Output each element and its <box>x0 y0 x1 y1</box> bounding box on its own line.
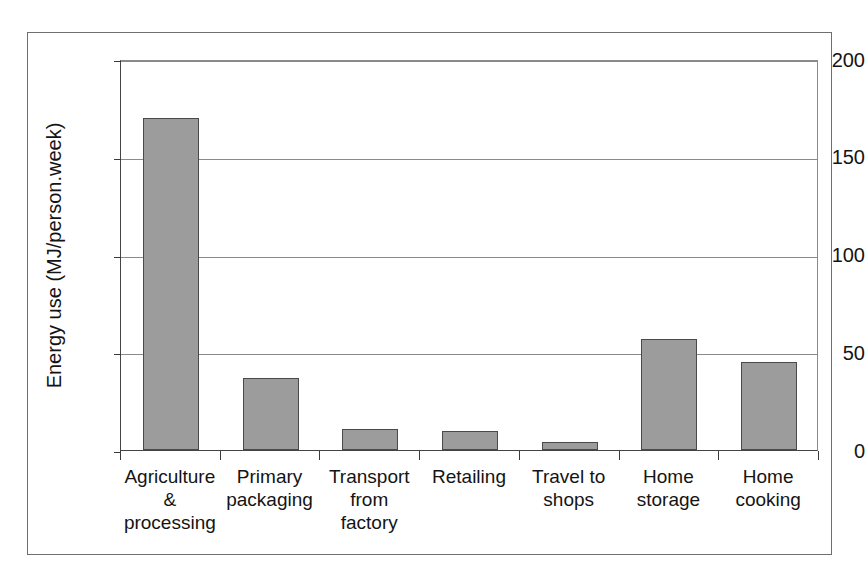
x-axis-tick-label: Agriculture&processing <box>120 465 220 534</box>
y-axis-tick <box>114 257 121 258</box>
bar <box>641 339 697 450</box>
x-axis-tick <box>220 451 221 460</box>
bar <box>442 431 498 450</box>
x-axis-tick-label-line: Transport <box>319 465 419 488</box>
bar <box>243 378 299 450</box>
x-axis-tick-label-line: shops <box>519 488 619 511</box>
x-axis-tick-label: Retailing <box>419 465 519 488</box>
x-axis-tick-label-line: storage <box>619 488 719 511</box>
plot-area <box>120 60 818 451</box>
y-axis-tick <box>114 159 121 160</box>
x-axis-tick <box>319 451 320 460</box>
x-axis: Agriculture&processingPrimarypackagingTr… <box>120 451 818 551</box>
gridline <box>121 354 817 355</box>
x-axis-tick-label: Travel toshops <box>519 465 619 511</box>
x-axis-tick <box>619 451 620 460</box>
y-axis-tick <box>114 354 121 355</box>
x-axis-tick-label-line: Agriculture <box>120 465 220 488</box>
y-axis-title: Energy use (MJ/person.week) <box>40 60 68 451</box>
x-axis-tick <box>718 451 719 460</box>
x-axis-tick-label: Primarypackaging <box>220 465 320 511</box>
x-axis-tick-label-line: & <box>120 488 220 511</box>
x-axis-tick-label-line: cooking <box>718 488 818 511</box>
x-axis-tick-label-line: Retailing <box>419 465 519 488</box>
gridline <box>121 257 817 258</box>
x-axis-tick-label-line: packaging <box>220 488 320 511</box>
x-axis-tick <box>818 451 819 460</box>
y-axis-tick <box>114 61 121 62</box>
bar <box>342 429 398 451</box>
bar <box>143 118 199 450</box>
x-axis-tick-label-line: from factory <box>319 488 419 534</box>
x-axis-tick-label-line: Travel to <box>519 465 619 488</box>
gridline <box>121 61 817 62</box>
x-axis-tick-label: Homecooking <box>718 465 818 511</box>
x-axis-tick <box>120 451 121 460</box>
x-axis-tick-label: Transportfrom factory <box>319 465 419 534</box>
gridline <box>121 159 817 160</box>
x-axis-tick-label-line: Home <box>619 465 719 488</box>
x-axis-tick-label: Homestorage <box>619 465 719 511</box>
x-axis-tick-label-line: Home <box>718 465 818 488</box>
x-axis-tick-label-line: processing <box>120 511 220 534</box>
bar <box>741 362 797 450</box>
chart-figure: Energy use (MJ/person.week) 200 150 100 … <box>0 0 865 580</box>
x-axis-tick <box>419 451 420 460</box>
x-axis-tick <box>519 451 520 460</box>
x-axis-tick-label-line: Primary <box>220 465 320 488</box>
bar <box>542 442 598 450</box>
